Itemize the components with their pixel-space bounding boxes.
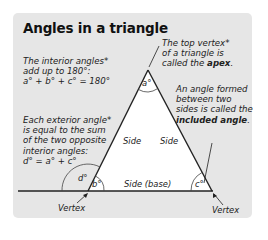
note-line: between two	[176, 94, 253, 104]
interior-sum-note: The interior angles* add up to 180°: a° …	[23, 56, 110, 87]
vertex-right-label: Vertex	[212, 205, 239, 215]
side-base-label: Side (base)	[124, 179, 171, 189]
note-line: interior angles:	[23, 146, 111, 156]
note-line: called the apex.	[162, 58, 233, 68]
apex-term: apex	[207, 58, 230, 68]
apex-pointer	[149, 46, 159, 67]
note-line: The interior angles*	[23, 56, 110, 66]
included-angle-pointer	[204, 143, 212, 183]
angle-b-label: b°	[92, 179, 102, 189]
note-line: d° = a° + c°	[23, 156, 111, 166]
apex-note: The top vertex* of a triangle is called …	[162, 38, 233, 69]
note-line: of a triangle is	[162, 48, 233, 58]
vertex-left-label: Vertex	[58, 203, 85, 213]
note-line: The top vertex*	[162, 38, 233, 48]
note-line: sides is called the	[176, 104, 253, 114]
note-line: a° + b° + c° = 180°	[23, 76, 110, 86]
exterior-angle-note: Each exterior angle* is equal to the sum…	[23, 115, 111, 166]
note-line: of the two opposite	[23, 135, 111, 145]
note-line: is equal to the sum	[23, 125, 111, 135]
side-left-label: Side	[123, 136, 141, 146]
included-angle-term: included angle	[176, 115, 247, 125]
note-line: add up to 180°:	[23, 66, 110, 76]
angle-c-label: c°	[195, 179, 204, 189]
note-line: An angle formed	[176, 84, 253, 94]
included-angle-note: An angle formed between two sides is cal…	[176, 84, 253, 125]
note-line: included angle.	[176, 115, 253, 125]
note-line: Each exterior angle*	[23, 115, 111, 125]
angle-d-label: d°	[78, 173, 88, 183]
angle-a-label: a°	[142, 78, 151, 88]
diagram-title: Angles in a triangle	[23, 20, 168, 36]
side-right-label: Side	[160, 136, 178, 146]
